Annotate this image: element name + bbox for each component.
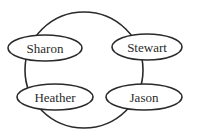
node-label-sharon: Sharon (27, 41, 64, 56)
graph-diagram: Sharon Stewart Heather Jason (0, 0, 200, 140)
node-heather: Heather (17, 84, 93, 110)
node-jason: Jason (106, 84, 182, 110)
node-label-heather: Heather (34, 90, 76, 105)
cycle-edge (25, 12, 143, 128)
node-label-stewart: Stewart (127, 40, 167, 55)
node-sharon: Sharon (8, 35, 82, 61)
node-label-jason: Jason (130, 90, 159, 105)
node-stewart: Stewart (112, 34, 182, 60)
